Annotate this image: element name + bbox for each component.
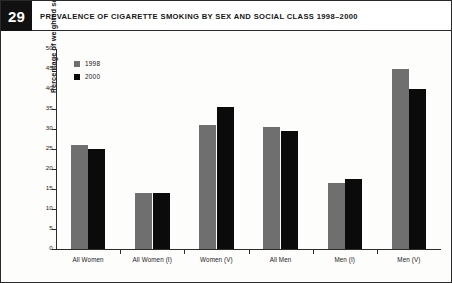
legend-item: 1998 xyxy=(74,58,100,69)
x-axis-category-label: All Women xyxy=(56,256,120,263)
figure-number-badge: 29 xyxy=(1,1,32,31)
y-axis-tick-mark xyxy=(52,209,56,210)
y-axis-tick: 5 xyxy=(32,229,62,230)
y-axis-tick-label: 35 xyxy=(33,104,53,111)
y-axis-tick-label: 0 xyxy=(33,244,53,251)
x-axis-tick-mark xyxy=(120,250,121,254)
y-axis-tick-mark xyxy=(52,189,56,190)
legend-swatch-icon xyxy=(74,74,80,80)
y-axis-tick: 25 xyxy=(32,149,62,150)
bar xyxy=(88,149,105,249)
y-axis-tick-label: 25 xyxy=(33,144,53,151)
y-axis-tick-mark xyxy=(52,149,56,150)
bar xyxy=(392,69,409,249)
y-axis-tick: 0 xyxy=(32,249,62,250)
bar xyxy=(217,107,234,249)
y-axis-tick-mark xyxy=(52,69,56,70)
bar xyxy=(263,127,280,249)
legend: 19982000 xyxy=(74,58,100,84)
bar xyxy=(281,131,298,249)
y-axis-tick-label: 30 xyxy=(33,124,53,131)
x-axis-tick-mark xyxy=(184,250,185,254)
y-axis-tick: 35 xyxy=(32,109,62,110)
legend-label: 1998 xyxy=(85,60,100,67)
bar xyxy=(409,89,426,249)
x-axis-category-label: Men (V) xyxy=(377,256,441,263)
y-axis-tick-label: 20 xyxy=(33,164,53,171)
x-axis-category-label: All Men xyxy=(249,256,313,263)
bar xyxy=(345,179,362,249)
x-axis-tick-mark xyxy=(313,250,314,254)
page-title: PREVALENCE OF CIGARETTE SMOKING BY SEX A… xyxy=(40,1,447,31)
x-axis-category-label: All Women (I) xyxy=(120,256,184,263)
y-axis-tick-label: 15 xyxy=(33,184,53,191)
y-axis-tick-label: 40 xyxy=(33,84,53,91)
y-axis-tick: 15 xyxy=(32,189,62,190)
y-axis-tick-label: 45 xyxy=(33,64,53,71)
bar xyxy=(199,125,216,249)
y-axis-tick: 50 xyxy=(32,49,62,50)
y-axis-tick: 20 xyxy=(32,169,62,170)
y-axis-tick-label: 50 xyxy=(33,44,53,51)
plot-area: Percentage of weighted sample 0510152025… xyxy=(56,49,441,250)
y-axis-tick-label: 10 xyxy=(33,204,53,211)
y-axis-tick-mark xyxy=(52,109,56,110)
x-axis-tick-mark xyxy=(249,250,250,254)
y-axis-tick-mark xyxy=(52,89,56,90)
y-axis-tick-mark xyxy=(52,129,56,130)
figure-container: 29 PREVALENCE OF CIGARETTE SMOKING BY SE… xyxy=(0,0,452,283)
legend-item: 2000 xyxy=(74,71,100,82)
y-axis-tick-mark xyxy=(52,249,56,250)
y-axis-tick: 40 xyxy=(32,89,62,90)
x-axis-category-label: Men (I) xyxy=(313,256,377,263)
y-axis-tick-mark xyxy=(52,169,56,170)
y-axis-tick-mark xyxy=(52,49,56,50)
bar xyxy=(71,145,88,249)
y-axis-tick-mark xyxy=(52,229,56,230)
x-axis-category-label: Women (V) xyxy=(184,256,248,263)
bar xyxy=(135,193,152,249)
y-axis-tick: 45 xyxy=(32,69,62,70)
y-axis-tick: 30 xyxy=(32,129,62,130)
y-axis-tick-label: 5 xyxy=(33,224,53,231)
bar xyxy=(153,193,170,249)
legend-label: 2000 xyxy=(85,73,100,80)
bar xyxy=(328,183,345,249)
x-axis-tick-mark xyxy=(377,250,378,254)
figure-header: 29 PREVALENCE OF CIGARETTE SMOKING BY SE… xyxy=(1,1,452,31)
y-axis-tick: 10 xyxy=(32,209,62,210)
legend-swatch-icon xyxy=(74,61,80,67)
